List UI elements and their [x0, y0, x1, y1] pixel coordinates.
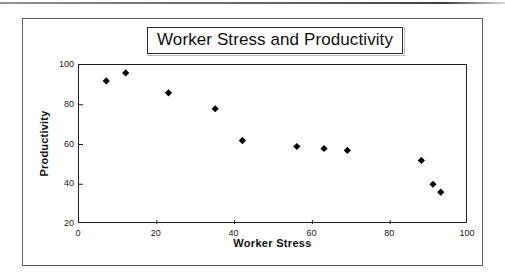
plot-area [78, 64, 467, 223]
data-point-marker [320, 145, 327, 152]
data-point-marker [429, 181, 436, 188]
y-tick-label: 40 [23, 179, 74, 188]
data-point-group [103, 69, 445, 195]
data-point-marker [293, 143, 300, 150]
data-point-marker [212, 105, 219, 112]
x-tick-label: 0 [75, 229, 80, 238]
y-tick-label: 80 [23, 99, 74, 108]
data-point-marker [103, 77, 110, 84]
data-point-marker [122, 69, 129, 76]
x-axis-title: Worker Stress [78, 237, 467, 249]
x-tick-label: 60 [306, 229, 316, 238]
scanner-artifact-line [0, 2, 505, 4]
scatter-plot-svg [79, 65, 468, 224]
data-point-marker [437, 189, 444, 196]
data-point-marker [418, 157, 425, 164]
x-tick-label: 100 [459, 229, 474, 238]
data-point-marker [344, 147, 351, 154]
data-point-marker [165, 89, 172, 96]
y-tick-label: 60 [23, 139, 74, 148]
chart-title: Worker Stress and Productivity [157, 30, 393, 49]
y-tick-label: 100 [23, 60, 74, 69]
chart-frame: Worker Stress and Productivity Productiv… [22, 18, 483, 266]
axis-tick-marks [79, 105, 390, 224]
y-tick-label: 20 [23, 219, 74, 228]
x-tick-label: 20 [151, 229, 161, 238]
data-point-marker [239, 137, 246, 144]
x-tick-label: 80 [384, 229, 394, 238]
x-tick-label: 40 [229, 229, 239, 238]
chart-title-box: Worker Stress and Productivity [147, 27, 403, 54]
